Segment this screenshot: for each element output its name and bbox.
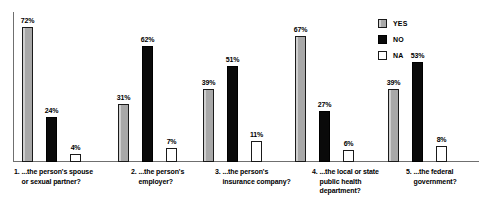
category-text: ...the person's spouse or sexual partner… xyxy=(22,167,93,186)
category-label-3: 3. ...the person's insurance company? xyxy=(215,167,291,186)
legend-label: NA xyxy=(393,52,404,60)
bar-group-4: 67% 27% 6% xyxy=(295,12,375,162)
category-number: 1. xyxy=(14,167,20,177)
legend-item-no: NO xyxy=(378,33,438,46)
black-swatch-icon xyxy=(378,35,387,44)
legend-label: YES xyxy=(393,20,408,28)
category-number: 5. xyxy=(406,167,412,177)
bar-value-label: 31% xyxy=(117,94,130,102)
category-number: 2. xyxy=(131,167,137,177)
bar-group-2: 31% 62% 7% xyxy=(118,12,198,162)
gray-swatch-icon xyxy=(378,19,387,28)
category-text-line: department? xyxy=(320,187,361,194)
bar-group-3: 39% 51% 11% xyxy=(203,12,283,162)
legend-label: NO xyxy=(393,36,404,44)
bar-no xyxy=(412,62,423,162)
bar-value-label: 62% xyxy=(141,36,154,44)
category-text-line: ...the person's spouse xyxy=(22,168,93,175)
bar-value-label: 7% xyxy=(167,138,177,146)
bar-value-label: 67% xyxy=(294,26,307,34)
category-text-line: public health xyxy=(320,178,362,185)
category-text-line: ...the federal xyxy=(414,168,454,175)
category-text-line: or sexual partner? xyxy=(22,178,81,185)
bar-na xyxy=(251,141,262,162)
category-text-line: ...the person's xyxy=(223,168,269,175)
bar-yes xyxy=(22,27,33,162)
category-text: ...the person's insurance company? xyxy=(223,167,291,186)
bar-no xyxy=(227,66,238,162)
legend-item-yes: YES xyxy=(378,17,438,30)
bar-value-label: 51% xyxy=(226,56,239,64)
bar-yes xyxy=(118,104,129,162)
bar-value-label: 72% xyxy=(21,17,34,25)
bar-value-label: 24% xyxy=(45,107,58,115)
bar-value-label: 6% xyxy=(344,140,354,148)
category-text-line: ...the local or state xyxy=(320,168,379,175)
category-number: 4. xyxy=(312,167,318,177)
category-label-5: 5. ...the federal government? xyxy=(406,167,457,186)
category-text-line: ...the person's xyxy=(139,168,185,175)
bar-yes xyxy=(295,36,306,162)
category-label-4: 4. ...the local or state public health d… xyxy=(312,167,379,196)
bar-no xyxy=(319,111,330,162)
category-number: 3. xyxy=(215,167,221,177)
white-swatch-icon xyxy=(378,51,387,60)
category-text-line: government? xyxy=(414,178,457,185)
bar-value-label: 4% xyxy=(71,144,81,152)
bar-value-label: 11% xyxy=(250,131,263,139)
bar-value-label: 39% xyxy=(387,79,400,87)
category-label-1: 1. ...the person's spouse or sexual part… xyxy=(14,167,93,186)
bar-na xyxy=(166,148,177,162)
category-text: ...the local or state public health depa… xyxy=(320,167,379,196)
category-axis-labels: 1. ...the person's spouse or sexual part… xyxy=(0,167,492,204)
bar-na xyxy=(70,154,81,162)
bar-value-label: 39% xyxy=(202,79,215,87)
bar-na xyxy=(343,150,354,162)
bar-group-1: 72% 24% 4% xyxy=(22,12,102,162)
bar-value-label: 8% xyxy=(437,136,447,144)
legend-item-na: NA xyxy=(378,49,438,62)
bar-no xyxy=(142,46,153,162)
category-label-2: 2. ...the person's employer? xyxy=(131,167,184,186)
bar-no xyxy=(46,117,57,162)
grouped-bar-chart: 72% 24% 4% 31% 62% 7% xyxy=(0,0,492,204)
bar-yes xyxy=(203,89,214,162)
chart-legend: YES NO NA xyxy=(378,17,438,65)
category-text-line: employer? xyxy=(139,178,174,185)
category-text-line: insurance company? xyxy=(223,178,291,185)
bar-value-label: 27% xyxy=(318,101,331,109)
bar-na xyxy=(436,146,447,162)
bar-yes xyxy=(388,89,399,162)
category-text: ...the person's employer? xyxy=(139,167,185,186)
category-text: ...the federal government? xyxy=(414,167,457,186)
